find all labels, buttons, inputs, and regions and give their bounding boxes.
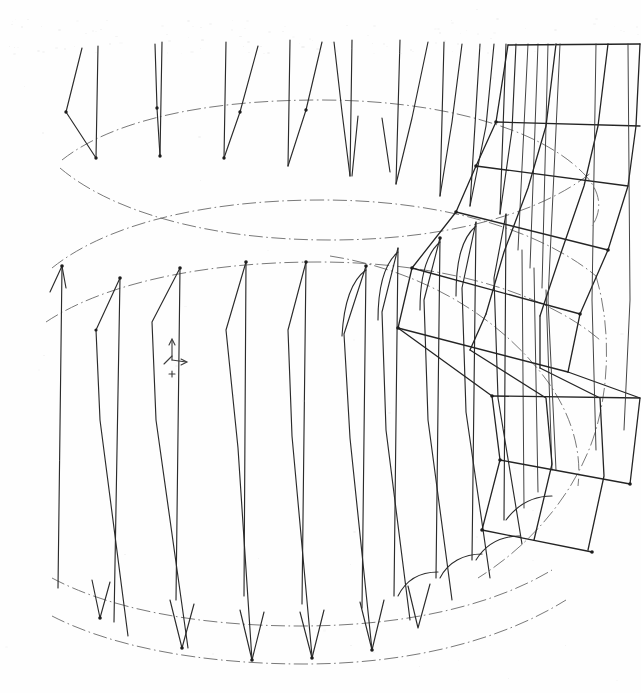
blade-node bbox=[94, 156, 97, 159]
mesh-node bbox=[480, 528, 484, 532]
mesh-node bbox=[454, 210, 458, 214]
drawing-canvas-root: .solid { fill:none; stroke:#2b2b2b; stro… bbox=[0, 0, 641, 693]
blade-node bbox=[60, 264, 64, 268]
mesh-node bbox=[410, 266, 414, 270]
blade-node bbox=[64, 110, 67, 113]
mesh-node bbox=[474, 164, 478, 168]
blade-node bbox=[244, 260, 248, 264]
blade-node bbox=[438, 236, 442, 240]
rim-node bbox=[370, 648, 374, 652]
blade-node bbox=[364, 264, 368, 268]
rim-node bbox=[98, 616, 102, 620]
mesh-node bbox=[498, 458, 502, 462]
mesh-node bbox=[590, 550, 594, 554]
blade-node bbox=[238, 110, 241, 113]
wireframe-drawing: .solid { fill:none; stroke:#2b2b2b; stro… bbox=[0, 0, 641, 693]
mesh-node bbox=[490, 394, 494, 398]
rim-node bbox=[250, 658, 254, 662]
mesh-node bbox=[628, 482, 632, 486]
blade-node bbox=[178, 266, 182, 270]
rim-node bbox=[310, 656, 314, 660]
blade-node bbox=[155, 106, 158, 109]
mesh-node bbox=[396, 326, 400, 330]
mesh-node bbox=[578, 312, 582, 316]
rim-node bbox=[180, 646, 184, 650]
blade-node bbox=[304, 108, 307, 111]
blade-node bbox=[94, 328, 97, 331]
blade-node bbox=[118, 276, 122, 280]
blade-node bbox=[222, 156, 225, 159]
mesh-node bbox=[606, 248, 610, 252]
mesh-node bbox=[494, 120, 498, 124]
paper-background bbox=[0, 0, 641, 693]
blade-node bbox=[304, 260, 308, 264]
blade-node bbox=[158, 154, 161, 157]
